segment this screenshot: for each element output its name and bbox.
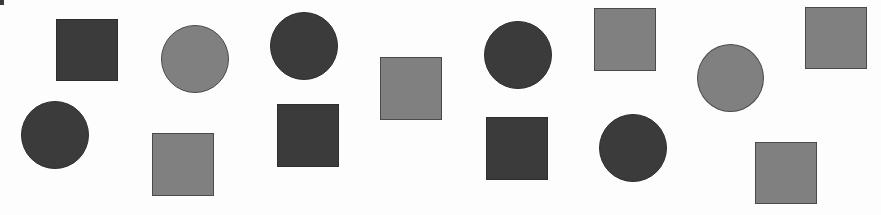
light-circle-icon: [697, 44, 764, 112]
dark-circle-icon: [270, 12, 338, 80]
light-square-icon: [380, 57, 442, 120]
light-square-icon: [805, 7, 867, 69]
light-circle-icon: [161, 25, 229, 93]
dark-circle-icon: [599, 114, 667, 182]
light-square-icon: [755, 142, 817, 204]
light-square-icon: [152, 133, 214, 196]
dark-square-icon: [277, 104, 339, 167]
dark-circle-icon: [484, 21, 552, 89]
dark-square-icon: [486, 117, 548, 180]
corner-mark: [0, 0, 4, 5]
dark-circle-icon: [21, 101, 89, 169]
dark-square-icon: [56, 19, 118, 81]
light-square-icon: [594, 8, 656, 71]
shapes-canvas: [0, 0, 881, 215]
